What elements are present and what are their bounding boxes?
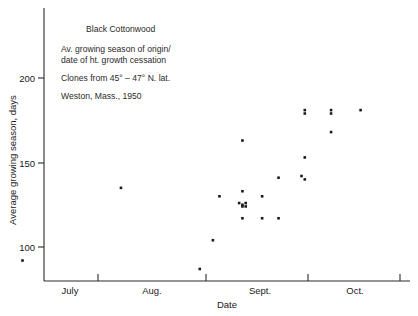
data-point: [198, 268, 201, 271]
annotation-line-1: Black Cottonwood: [86, 24, 155, 34]
y-tick-label-100: 100: [19, 242, 35, 253]
data-point: [330, 112, 333, 115]
data-point: [304, 112, 307, 115]
annotation-line-2: Av. growing season of origin/: [61, 44, 171, 54]
data-point: [212, 239, 215, 242]
data-point: [261, 195, 264, 198]
annotation-line-4: Clones from 45° – 47° N. lat.: [61, 73, 170, 83]
data-point: [241, 190, 244, 193]
data-point: [277, 176, 280, 179]
x-tick-label-oct: Oct.: [346, 285, 363, 296]
chart-figure: 200 150 100 Average growing season, days…: [0, 0, 418, 316]
data-point: [241, 217, 244, 220]
data-point: [238, 202, 241, 205]
data-point: [218, 195, 221, 198]
x-tick-label-july: July: [62, 285, 79, 296]
y-tick-label-200: 200: [19, 73, 35, 84]
data-point: [359, 109, 362, 112]
data-point: [21, 259, 24, 262]
data-point: [304, 156, 307, 159]
x-axis-title: Date: [217, 299, 237, 310]
data-point: [261, 217, 264, 220]
data-point: [241, 139, 244, 142]
data-point: [300, 175, 303, 178]
data-point: [277, 217, 280, 220]
data-point: [244, 205, 247, 208]
y-axis-title: Average growing season, days: [7, 95, 18, 225]
data-point: [304, 178, 307, 181]
x-tick-label-sept: Sept.: [249, 285, 271, 296]
y-tick-label-150: 150: [19, 158, 35, 169]
data-point: [120, 187, 123, 190]
x-tick-label-aug: Aug.: [142, 285, 162, 296]
data-point: [330, 109, 333, 112]
data-point: [304, 109, 307, 112]
scatter-plot-svg: 200 150 100 Average growing season, days…: [0, 0, 418, 316]
annotation-line-3: date of ht. growth cessation: [61, 55, 166, 65]
data-point: [244, 202, 247, 205]
data-point: [241, 203, 244, 206]
annotation-line-5: Weston, Mass., 1950: [61, 91, 142, 101]
data-point: [330, 131, 333, 134]
